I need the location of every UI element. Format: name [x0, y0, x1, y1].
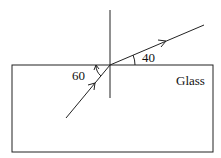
refracted-angle-label: 40 — [142, 50, 155, 65]
medium-label: Glass — [176, 73, 205, 88]
refraction-diagram: 60 40 Glass — [0, 0, 221, 158]
refracted-arrow-icon — [158, 40, 166, 47]
incident-angle-label: 60 — [72, 68, 85, 83]
refracted-angle-arc — [133, 55, 135, 65]
refracted-ray — [110, 25, 204, 65]
